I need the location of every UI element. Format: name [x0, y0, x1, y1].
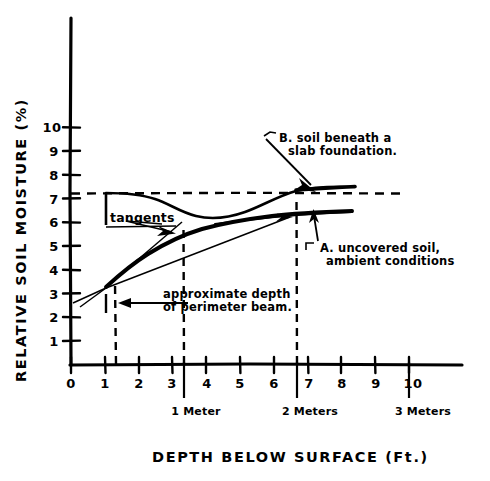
meter-label-3m: 3 Meters [395, 405, 451, 418]
x-tick-label-5: 5 [235, 376, 244, 391]
vertical-marker-2-meters [297, 196, 298, 364]
y-tick-label-4: 4 [49, 263, 58, 278]
y-tick-label-5: 5 [49, 239, 58, 254]
y-tick-label-6: 6 [49, 215, 58, 230]
chart-page: 1 2 3 4 5 6 7 8 9 10 0 1 2 3 4 5 6 7 8 9… [0, 0, 490, 481]
x-axis-line [70, 364, 462, 365]
x-tick-label-1: 1 [100, 376, 109, 391]
y-tick-label-9: 9 [49, 144, 58, 159]
leader-tick-b [264, 132, 276, 136]
x-tick-label-9: 9 [371, 376, 380, 391]
annotation-a-line1: A. uncovered soil, [320, 241, 440, 255]
annotation-tangents: tangents [110, 210, 175, 225]
x-tick-label-2: 2 [134, 376, 143, 391]
x-tick-label-3: 3 [167, 376, 176, 391]
meter-labels: 1 Meter 2 Meters 3 Meters [171, 405, 451, 418]
annotation-b-label: B. soil beneath a slab foundation. [279, 131, 397, 158]
vertical-marker-perimeter-beam [115, 283, 116, 364]
annotation-a-label: A. uncovered soil, ambient conditions [320, 241, 454, 268]
y-tick-label-10: 10 [43, 120, 62, 135]
meter-label-2m: 2 Meters [282, 405, 338, 418]
x-axis-title: DEPTH BELOW SURFACE (Ft.) [152, 449, 429, 465]
x-tick-label-4: 4 [202, 376, 211, 391]
y-tick-label-8: 8 [49, 168, 58, 183]
y-tick-label-1: 1 [49, 334, 58, 349]
tangent-line-upper [106, 217, 290, 288]
y-tick-label-7: 7 [49, 192, 58, 207]
annotation-b-line1: B. soil beneath a [279, 131, 391, 145]
y-axis-line [70, 18, 71, 365]
annotation-a-line2: ambient conditions [326, 254, 454, 268]
y-tick-label-3: 3 [49, 287, 58, 302]
x-tick-3 [172, 357, 173, 373]
y-tick-label-2: 2 [49, 310, 58, 325]
x-tick-label-6: 6 [269, 376, 278, 391]
annotation-beam-line1: approximate depth [163, 287, 291, 301]
annotation-b-line2: slab foundation. [288, 144, 397, 158]
soil-moisture-chart: 1 2 3 4 5 6 7 8 9 10 0 1 2 3 4 5 6 7 8 9… [0, 0, 490, 481]
meter-label-1m: 1 Meter [171, 405, 221, 418]
annotation-perimeter-beam: approximate depth of perimeter beam. [163, 287, 292, 314]
y-tick-labels: 1 2 3 4 5 6 7 8 9 10 [43, 120, 62, 349]
x-tick-label-8: 8 [337, 376, 346, 391]
x-tick-label-7: 7 [304, 376, 313, 391]
x-tick-label-0: 0 [66, 376, 75, 391]
annotation-beam-line2: of perimeter beam. [163, 300, 292, 314]
x-tick-1 [105, 357, 106, 373]
x-tick-labels: 0 1 2 3 4 5 6 7 8 9 10 [66, 376, 422, 391]
y-axis-title: RELATIVE SOIL MOISTURE (%) [13, 98, 29, 382]
x-tick-label-10: 10 [404, 376, 423, 391]
